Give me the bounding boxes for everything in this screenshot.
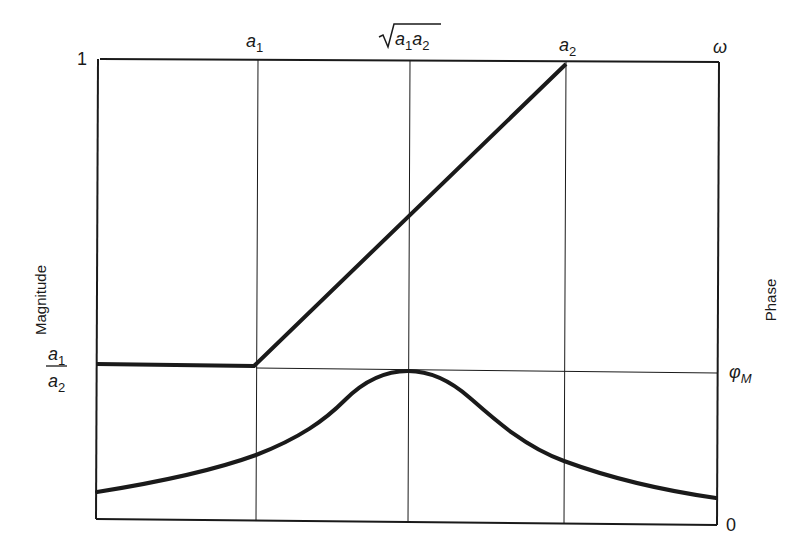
x-tick-labels: a1 a1a2 a2 ω <box>246 24 727 59</box>
gridline-a2 <box>564 62 566 523</box>
bode-lead-compensator-chart: a1 a1a2 a2 ω 1 a1 a2 Magnitude φM 0 Phas… <box>0 0 808 553</box>
plot-frame <box>96 59 719 525</box>
svg-text:a1: a1 <box>48 344 65 368</box>
svg-text:a2: a2 <box>48 371 65 395</box>
svg-text:a1a2: a1a2 <box>395 29 430 53</box>
x-tick-sqrt-a1a2: a1a2 <box>379 24 441 53</box>
gridline-phi-m <box>256 368 717 373</box>
y-left-tick-one: 1 <box>77 49 87 69</box>
grid-lines <box>256 60 717 523</box>
gridline-a1 <box>256 60 258 521</box>
y-right-axis-label: Phase <box>762 279 779 322</box>
phase-curve <box>97 371 716 498</box>
magnitude-asymptote-line <box>97 64 566 366</box>
x-axis-omega-label: ω <box>713 37 727 57</box>
frame-right <box>717 62 719 525</box>
y-right-tick-zero: 0 <box>726 515 736 535</box>
frame-bottom <box>96 519 717 525</box>
x-tick-a2: a2 <box>559 35 576 59</box>
y-left-axis-label: Magnitude <box>32 265 49 335</box>
x-tick-a1: a1 <box>246 31 263 55</box>
gridline-sqrt-a1a2 <box>408 61 410 522</box>
frame-left <box>96 59 98 519</box>
y-left-tick-a1-over-a2: a1 a2 <box>46 344 67 395</box>
y-right-tick-phi-m: φM <box>729 362 752 386</box>
